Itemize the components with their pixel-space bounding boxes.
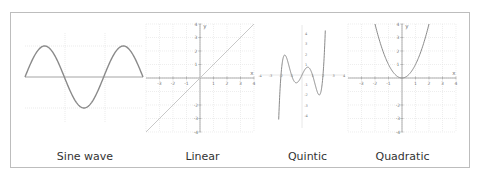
y-tick-label: 3 — [195, 35, 198, 40]
x-tick-label: -1 — [386, 81, 391, 86]
y-tick-label: -3 — [396, 116, 401, 121]
y-tick-label: -2 — [194, 103, 199, 108]
y-tick-label: -4 — [396, 130, 401, 135]
y-tick-label: -4 — [304, 114, 308, 118]
y-tick-label: 1 — [305, 63, 307, 67]
x-tick-label: 3 — [239, 81, 242, 86]
x-tick-label: -1 — [184, 81, 189, 86]
y-tick-label: 3 — [305, 42, 307, 46]
x-tick-label: 2 — [226, 81, 229, 86]
y-tick-label: 2 — [397, 49, 400, 54]
x-tick-label: 2 — [428, 81, 431, 86]
x-tick-label: 3 — [332, 74, 334, 78]
y-tick-label: 3 — [397, 35, 400, 40]
y-tick-label: -3 — [194, 116, 199, 121]
x-tick-label: -3 — [269, 74, 273, 78]
y-tick-label: -3 — [304, 104, 308, 108]
y-tick-label: 2 — [195, 49, 198, 54]
y-tick-label: 4 — [397, 22, 400, 27]
x-tick-label: 1 — [212, 81, 215, 86]
x-tick-label: 4 — [253, 81, 256, 86]
x-tick-label: -2 — [373, 81, 378, 86]
x-tick-label: -3 — [157, 81, 162, 86]
x-tick-label: 1 — [414, 81, 417, 86]
y-tick-label: -4 — [194, 130, 199, 135]
x-tick-label: -4 — [258, 74, 262, 78]
y-tick-label: -1 — [304, 83, 308, 87]
y-tick-label: 1 — [195, 62, 198, 67]
y-tick-label: -2 — [304, 93, 308, 97]
caption-sine-wave: Sine wave — [55, 150, 115, 163]
caption-quadratic: Quadratic — [370, 150, 435, 163]
x-tick-label: 4 — [455, 81, 458, 86]
y-tick-label: -2 — [396, 103, 401, 108]
y-tick-label: 2 — [305, 53, 307, 57]
x-tick-label: -3 — [359, 81, 364, 86]
x-tick-label: 4 — [343, 74, 346, 78]
charts-canvas: -3-2-11234-4-3-21234xy-4-3-2-11234-4-3-2… — [0, 0, 481, 175]
x-tick-label: -2 — [171, 81, 176, 86]
y-tick-label: 1 — [397, 62, 400, 67]
y-tick-label: 4 — [195, 22, 198, 27]
y-tick-label: 4 — [305, 32, 308, 36]
caption-linear: Linear — [175, 150, 230, 163]
x-tick-label: 3 — [441, 81, 444, 86]
caption-quintic: Quintic — [280, 150, 335, 163]
